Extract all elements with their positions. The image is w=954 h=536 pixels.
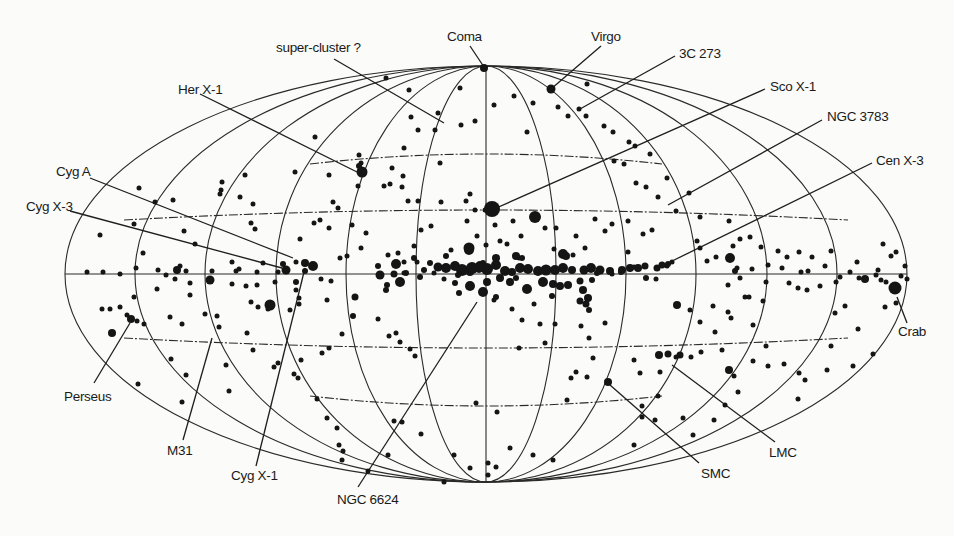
xray-source-dot — [644, 185, 649, 190]
xray-source-dot — [656, 195, 661, 200]
xray-source-dot — [251, 202, 256, 207]
xray-source-dot — [249, 221, 254, 226]
xray-source-dot — [876, 268, 881, 273]
xray-source-dot — [188, 281, 193, 286]
xray-source-dot — [473, 119, 478, 124]
xray-source-dot — [884, 280, 889, 285]
xray-source-dot — [579, 324, 584, 329]
xray-source-dot — [494, 465, 499, 470]
galactic-coordinate-map: Comasuper-cluster ?Virgo3C 273Sco X-1NGC… — [0, 0, 954, 536]
xray-source-dot — [523, 264, 533, 274]
xray-source-dot — [632, 443, 637, 448]
xray-source-dot — [475, 234, 480, 239]
xray-source-dot — [417, 274, 423, 280]
xray-source-dot — [401, 174, 406, 179]
xray-source-dot — [796, 286, 801, 291]
xray-source-dot — [383, 287, 389, 293]
xray-source-dot — [308, 261, 318, 271]
xray-source-dot — [726, 283, 731, 288]
leader-line-ngc-6624 — [358, 302, 477, 487]
xray-source-dot — [108, 307, 113, 312]
xray-source-dot — [293, 170, 298, 175]
xray-source-dot — [738, 237, 743, 242]
xray-source-dot — [519, 255, 525, 261]
xray-source-dot — [164, 273, 169, 278]
xray-source-dot — [466, 268, 474, 276]
xray-source-dot — [336, 206, 341, 211]
xray-source-dot — [452, 280, 458, 286]
xray-source-dot — [464, 199, 469, 204]
xray-source-dot — [427, 260, 433, 266]
xray-source-dot — [350, 223, 355, 228]
xray-source-dot — [547, 85, 556, 94]
xray-source-dot — [894, 301, 899, 306]
xray-source-dot — [541, 265, 552, 276]
xray-source-dot — [415, 260, 420, 265]
xray-source-dot — [220, 180, 225, 185]
xray-source-dot — [571, 253, 576, 258]
xray-source-dot — [761, 299, 766, 304]
xray-source-dot — [243, 173, 248, 178]
xray-source-dot — [184, 269, 189, 274]
xray-source-dot — [341, 449, 346, 454]
xray-source-dot — [549, 293, 555, 299]
xray-source-dot — [829, 249, 834, 254]
xray-sky-map: Comasuper-cluster ?Virgo3C 273Sco X-1NGC… — [0, 0, 954, 536]
xray-source-dot — [255, 270, 260, 275]
xray-source-dot — [698, 215, 703, 220]
xray-source-dot — [266, 307, 271, 312]
xray-source-dot — [217, 325, 222, 330]
xray-source-dot — [171, 198, 176, 203]
xray-source-dot — [210, 269, 215, 274]
xray-source-dot — [280, 261, 286, 267]
xray-source-dot — [132, 295, 137, 300]
xray-source-dot — [879, 278, 884, 283]
xray-source-dot — [751, 323, 756, 328]
xray-source-dot — [805, 288, 810, 293]
xray-source-dot — [653, 418, 658, 423]
xray-source-dot — [288, 308, 293, 313]
xray-source-dot — [292, 372, 297, 377]
xray-source-dot — [586, 307, 592, 313]
xray-source-dot — [180, 400, 185, 405]
xray-source-dot — [293, 279, 299, 285]
xray-source-dot — [419, 228, 424, 233]
xray-source-dot — [492, 298, 497, 303]
xray-source-dot — [301, 259, 309, 267]
xray-source-dot — [409, 115, 414, 120]
xray-source-dot — [182, 229, 187, 234]
xray-source-dot — [486, 461, 491, 466]
xray-source-dot — [398, 340, 403, 345]
xray-source-dot — [320, 351, 325, 356]
xray-source-dot — [350, 313, 356, 319]
xray-source-dot — [705, 259, 710, 264]
xray-source-dot — [244, 284, 249, 289]
xray-source-dot — [255, 283, 260, 288]
xray-source-dot — [480, 64, 488, 72]
xray-source-dot — [727, 219, 732, 224]
label-her-x-1: Her X-1 — [178, 82, 222, 97]
xray-source-dot — [484, 243, 489, 248]
xray-source-dot — [276, 361, 281, 366]
xray-source-dot — [193, 242, 198, 247]
xray-source-dot — [496, 274, 504, 282]
xray-source-dot — [883, 305, 888, 310]
xray-source-dot — [551, 458, 556, 463]
xray-source-dot — [569, 376, 574, 381]
xray-source-dot — [441, 263, 451, 273]
xray-source-dot — [416, 128, 421, 133]
xray-source-dot — [532, 302, 537, 307]
xray-source-dot — [364, 231, 369, 236]
xray-source-dot — [452, 453, 457, 458]
xray-source-dot — [203, 312, 208, 317]
xray-source-dot — [556, 282, 564, 290]
xray-source-dot — [543, 341, 548, 346]
xray-source-dot — [215, 314, 220, 319]
xray-source-dot — [591, 356, 596, 361]
xray-source-dot — [713, 330, 718, 335]
xray-source-dot — [438, 161, 443, 166]
xray-source-dot — [134, 266, 139, 271]
xray-source-dot — [871, 352, 876, 357]
xray-source-dot — [402, 146, 407, 151]
xray-source-dot — [725, 366, 733, 374]
